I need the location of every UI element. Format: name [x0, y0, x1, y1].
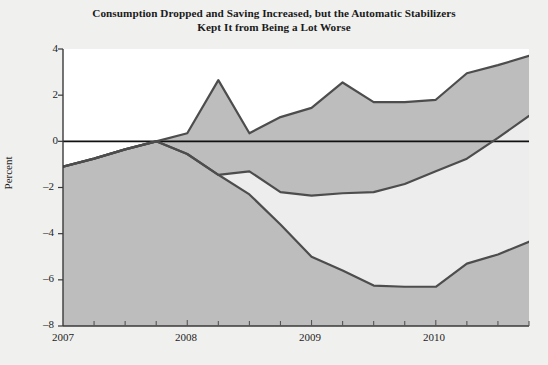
chart-plot-area: [0, 0, 548, 365]
chart-figure: Consumption Dropped and Saving Increased…: [0, 0, 548, 365]
